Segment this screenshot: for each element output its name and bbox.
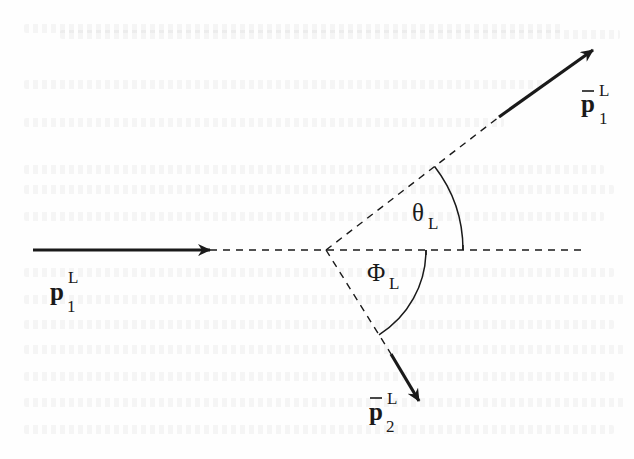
p1-label: p L 1 xyxy=(50,268,78,316)
svg-text:L: L xyxy=(428,214,438,233)
theta-label: θ L xyxy=(412,199,438,233)
pbar1-label: p L 1 xyxy=(581,81,609,128)
svg-text:L: L xyxy=(599,81,609,100)
svg-text:1: 1 xyxy=(67,297,76,316)
svg-text:θ: θ xyxy=(412,199,424,226)
svg-text:Φ: Φ xyxy=(367,259,385,286)
phi-label: Φ L xyxy=(367,259,399,293)
svg-text:2: 2 xyxy=(386,417,395,436)
diagram-canvas: p L 1 p L 1 p L 2 θ L Φ L xyxy=(0,0,634,459)
svg-text:L: L xyxy=(389,274,399,293)
kinematics-diagram: p L 1 p L 1 p L 2 θ L Φ L xyxy=(0,0,634,459)
svg-text:p: p xyxy=(581,90,595,117)
svg-text:L: L xyxy=(68,268,78,287)
svg-text:1: 1 xyxy=(599,109,608,128)
svg-text:p: p xyxy=(369,398,383,425)
svg-text:L: L xyxy=(387,389,397,408)
phi-angle-arc xyxy=(379,250,426,335)
svg-text:p: p xyxy=(50,278,64,305)
pbar1-vector-arrow xyxy=(499,50,593,117)
pbar1-direction-dashed-line xyxy=(326,117,499,250)
pbar2-label: p L 2 xyxy=(369,389,397,436)
theta-angle-arc xyxy=(435,167,463,251)
